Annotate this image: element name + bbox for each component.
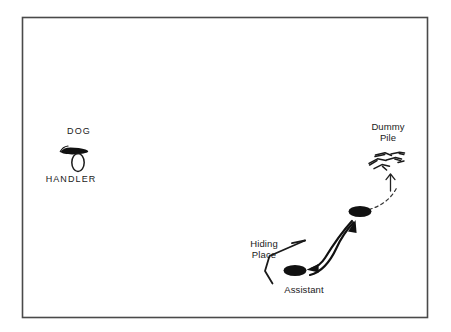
handler-symbol-icon: [72, 154, 84, 172]
assistant-label: Assistant: [284, 285, 323, 296]
dummy-pile-up-arrow-icon: [386, 174, 395, 191]
dog-symbol-icon: [60, 146, 88, 154]
handler-label: HANDLER: [46, 174, 97, 184]
diagram-canvas: [0, 0, 451, 332]
dog-label: DOG: [67, 126, 91, 136]
hiding-place-label-line2: Place: [252, 250, 276, 261]
dummy-pile-icon: [369, 152, 405, 170]
field-diagram: DOG HANDLER Dummy Pile Hiding Place Assi…: [0, 0, 451, 332]
assistant-marker: [284, 265, 307, 276]
return-arrow: [307, 221, 353, 273]
dummy-pile-label-line2: Pile: [380, 133, 396, 144]
dashed-scent-path: [369, 186, 398, 210]
waypoint-marker: [349, 206, 372, 217]
